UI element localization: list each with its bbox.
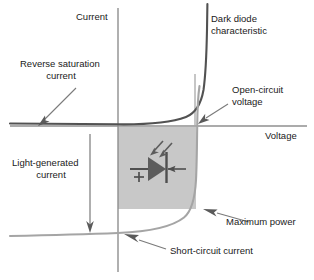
dark-diode-characteristic-label-line2: characteristic — [211, 25, 267, 36]
reverse-saturation-current-label-line1: Reverse saturation — [20, 58, 100, 69]
open-circuit-voltage-label-line1: Open-circuit — [232, 84, 283, 95]
iv-characteristic-figure: Current Voltage Dark diode characteristi… — [0, 0, 314, 280]
dark-diode-characteristic-label-line1: Dark diode — [211, 13, 257, 24]
open-circuit-arrow-head — [198, 114, 210, 124]
light-generated-current-label-line2: current — [12, 169, 90, 180]
short-circuit-current-label: Short-circuit current — [170, 245, 253, 256]
voltage-axis-label: Voltage — [265, 130, 297, 141]
maximum-power-label: Maximum power — [226, 216, 296, 227]
light-generated-current-label-line1: Light-generated — [12, 157, 79, 168]
reverse-saturation-leader-line — [44, 88, 76, 120]
maximum-power-arrow-head — [203, 209, 218, 217]
reverse-saturation-current-label-line2: current — [20, 70, 102, 81]
short-circuit-leader-line — [139, 240, 166, 249]
short-circuit-arrow-head — [124, 234, 139, 243]
open-circuit-voltage-label-line2: voltage — [232, 96, 263, 107]
current-axis-label: Current — [76, 11, 108, 22]
open-circuit-leader-line — [206, 104, 228, 118]
